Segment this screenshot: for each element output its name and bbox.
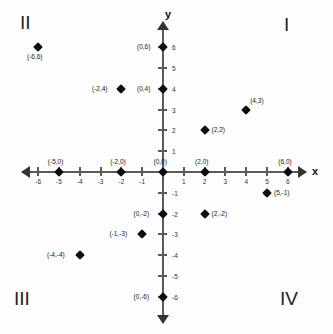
plotted-point[interactable] xyxy=(158,209,168,219)
y-axis-arrow-up-icon xyxy=(157,21,169,30)
plotted-point[interactable] xyxy=(283,167,293,177)
x-axis-tick-label: 6 xyxy=(286,178,290,185)
x-axis-tick xyxy=(266,167,268,176)
quadrant-label-iii: III xyxy=(14,288,30,310)
plotted-point[interactable] xyxy=(241,105,251,115)
y-axis-tick xyxy=(158,67,167,69)
plotted-point-label: (2,2) xyxy=(212,126,225,133)
coordinate-plane: x y I II III IV -6-5-4-3-2-1123456654321… xyxy=(0,0,333,334)
y-axis-arrow-down-icon xyxy=(157,315,169,324)
y-axis-tick xyxy=(158,109,167,111)
plotted-point[interactable] xyxy=(137,229,147,239)
y-axis-tick-label: 1 xyxy=(172,148,176,155)
x-axis-tick-label: -3 xyxy=(98,178,104,185)
x-axis-tick xyxy=(183,167,185,176)
plotted-point[interactable] xyxy=(116,167,126,177)
x-axis-tick xyxy=(224,167,226,176)
plotted-point-label: (-5,0) xyxy=(48,158,64,165)
plotted-point[interactable] xyxy=(158,42,168,52)
x-axis-tick-label: -2 xyxy=(119,178,125,185)
y-axis-tick xyxy=(158,254,167,256)
x-axis-tick xyxy=(100,167,102,176)
plotted-point-label: (-2,4) xyxy=(92,85,108,92)
plotted-point-label: (2,0) xyxy=(195,158,208,165)
x-axis-tick-label: 2 xyxy=(203,178,207,185)
x-axis-tick-label: 5 xyxy=(265,178,269,185)
plotted-point[interactable] xyxy=(158,167,168,177)
plotted-point[interactable] xyxy=(158,84,168,94)
plotted-point[interactable] xyxy=(200,125,210,135)
plotted-point-label: (0,0) xyxy=(154,158,167,165)
y-axis-tick xyxy=(158,129,167,131)
x-axis-arrow-left-icon xyxy=(21,166,30,178)
y-axis-tick-label: -3 xyxy=(172,231,178,238)
plotted-point[interactable] xyxy=(262,188,272,198)
x-axis-tick-label: 4 xyxy=(244,178,248,185)
x-axis-tick-label: 1 xyxy=(182,178,186,185)
y-axis-tick xyxy=(158,192,167,194)
plotted-point[interactable] xyxy=(200,167,210,177)
y-axis-label: y xyxy=(165,8,171,20)
x-axis-label: x xyxy=(312,165,318,177)
plotted-point-label: (-2,0) xyxy=(110,158,126,165)
plotted-point-label: (0,4) xyxy=(137,85,150,92)
y-axis-tick-label: 3 xyxy=(172,106,176,113)
plotted-point-label: (0,-6) xyxy=(134,293,150,300)
y-axis-tick-label: 5 xyxy=(172,65,176,72)
y-axis-tick-label: -6 xyxy=(172,293,178,300)
plotted-point-label: (6,0) xyxy=(278,158,291,165)
x-axis-arrow-right-icon xyxy=(298,166,307,178)
y-axis-tick-label: -1 xyxy=(172,189,178,196)
plotted-point-label: (5,-1) xyxy=(274,189,290,196)
x-axis-tick-label: -5 xyxy=(56,178,62,185)
y-axis-tick-label: 4 xyxy=(172,85,176,92)
x-axis-tick-label: -4 xyxy=(77,178,83,185)
plotted-point-label: (4,3) xyxy=(250,97,263,104)
quadrant-label-ii: II xyxy=(20,12,31,34)
y-axis-tick xyxy=(158,233,167,235)
x-axis-tick xyxy=(141,167,143,176)
y-axis-tick-label: -2 xyxy=(172,210,178,217)
plotted-point-label: (-1,-3) xyxy=(109,230,127,237)
y-axis-tick-label: 2 xyxy=(172,127,176,134)
x-axis-tick xyxy=(245,167,247,176)
plotted-point-label: (-6,6) xyxy=(27,53,43,60)
x-axis-tick xyxy=(79,167,81,176)
plotted-point[interactable] xyxy=(54,167,64,177)
x-axis-tick-label: -6 xyxy=(35,178,41,185)
plotted-point-label: (0,-2) xyxy=(134,210,150,217)
y-axis-tick-label: -5 xyxy=(172,273,178,280)
y-axis-tick xyxy=(158,150,167,152)
plotted-point[interactable] xyxy=(200,209,210,219)
plotted-point-label: (2,-2) xyxy=(212,210,228,217)
quadrant-label-i: I xyxy=(284,14,289,36)
plotted-point[interactable] xyxy=(33,42,43,52)
plotted-point[interactable] xyxy=(158,292,168,302)
plotted-point-label: (-4,-4) xyxy=(47,251,65,258)
plotted-point-label: (0,6) xyxy=(137,43,150,50)
quadrant-label-iv: IV xyxy=(280,288,298,310)
y-axis-tick xyxy=(158,275,167,277)
x-axis-tick-label: 3 xyxy=(224,178,228,185)
x-axis-tick xyxy=(37,167,39,176)
plotted-point[interactable] xyxy=(75,250,85,260)
x-axis-tick-label: -1 xyxy=(139,178,145,185)
plotted-point[interactable] xyxy=(116,84,126,94)
y-axis-tick-label: -4 xyxy=(172,252,178,259)
y-axis-tick-label: 6 xyxy=(172,44,176,51)
